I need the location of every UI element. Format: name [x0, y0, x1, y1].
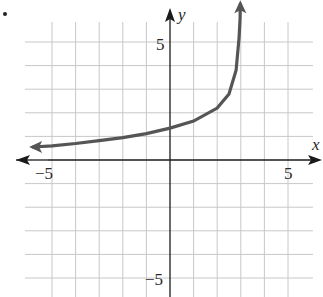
x-tick-pos5: 5 [284, 164, 293, 183]
x-axis-label: x [311, 135, 320, 154]
y-tick-pos5: 5 [156, 35, 165, 54]
axes [16, 8, 322, 297]
function-curve [33, 4, 240, 147]
graph-plot: y x −5 5 5 −5 [0, 0, 323, 297]
y-axis-label: y [176, 5, 186, 24]
y-tick-neg5: −5 [145, 270, 163, 289]
x-tick-neg5: −5 [35, 164, 53, 183]
